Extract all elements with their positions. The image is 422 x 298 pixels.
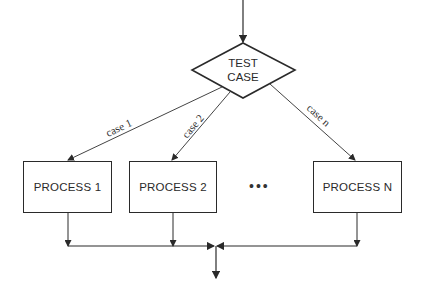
process-1-box: PROCESS 1 [23,161,112,213]
process-2-box: PROCESS 2 [129,161,217,213]
case-n-arrow [270,84,355,160]
process-n-box: PROCESS N [313,161,402,213]
test-case-line1: TEST [213,56,273,70]
case-2-arrow [172,92,230,160]
case-n-label: case n [305,102,334,129]
process-1-label: PROCESS 1 [34,181,102,193]
flowchart-lines: case 1 case 2 case n [0,0,422,298]
ellipsis: ••• [249,178,270,194]
test-case-label: TEST CASE [213,56,273,84]
test-case-line2: CASE [213,70,273,84]
process-n-label: PROCESS N [323,181,393,193]
process-2-label: PROCESS 2 [139,181,207,193]
